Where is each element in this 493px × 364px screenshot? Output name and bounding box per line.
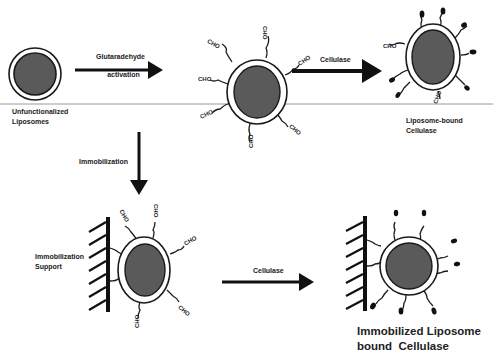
svg-text:CHO: CHO [206, 38, 221, 50]
label-line: Unfunctionalized [12, 107, 68, 117]
label-line: bound Cellulase [357, 339, 481, 354]
label-line: Cellulase [406, 126, 463, 136]
unfunctionalized-liposomes-label: Unfunctionalized Liposomes [12, 107, 68, 127]
liposome-bound-cellulase: CHO CHO [383, 7, 476, 104]
svg-text:CHO: CHO [183, 235, 198, 247]
immobilization-support-label: Immobilization Support [35, 252, 84, 272]
immobilized-activated-liposome: CHO CHO CHO CHO CHO [89, 204, 198, 328]
cellulase-label-bottom: Cellulase [253, 266, 284, 276]
activated-liposome: CHO CHO CHO CHO CHO CHO CHO [198, 26, 312, 148]
glutaraldehyde-activation-label: Glutaradehyde activation [96, 52, 145, 80]
svg-text:CHO: CHO [248, 134, 254, 148]
svg-text:CHO: CHO [199, 109, 214, 120]
liposome-immobilization-diagram: CHO CHO CHO CHO CHO CHO CHO [0, 0, 493, 364]
immobilization-label: Immobilization [79, 157, 128, 167]
immobilized-liposome-bound-cellulase-label: Immobilized Liposome bound Cellulase [357, 324, 481, 354]
label-line: Immobilized Liposome [357, 324, 481, 339]
svg-text:CHO: CHO [383, 43, 397, 49]
svg-text:CHO: CHO [134, 314, 140, 328]
svg-text:CHO: CHO [198, 76, 212, 82]
label-line: Liposome-bound [406, 116, 463, 126]
liposome-bound-cellulase-label: Liposome-bound Cellulase [406, 116, 463, 136]
immobilized-liposome-bound-cellulase [346, 210, 461, 315]
svg-text:CHO: CHO [118, 209, 130, 224]
label-line: Support [35, 262, 84, 272]
label-line: Immobilization [35, 252, 84, 262]
label-line: Glutaradehyde [96, 52, 145, 62]
svg-text:CHO: CHO [288, 123, 302, 136]
label-line: activation [96, 70, 145, 80]
svg-text:CHO: CHO [153, 204, 159, 218]
cellulase-label-top: Cellulase [320, 55, 351, 65]
svg-text:CHO: CHO [432, 90, 442, 105]
label-line: Liposomes [12, 117, 68, 127]
unfunctionalized-liposome [9, 48, 61, 100]
svg-text:CHO: CHO [177, 304, 191, 317]
svg-text:CHO: CHO [262, 26, 268, 40]
svg-text:CHO: CHO [297, 54, 312, 67]
